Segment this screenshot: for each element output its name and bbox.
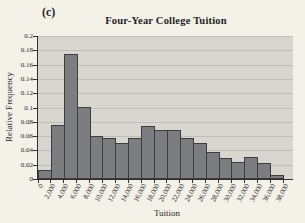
histogram-bar: [141, 126, 155, 179]
histogram-bar: [270, 175, 284, 179]
histogram-bar: [244, 157, 258, 179]
histogram-figure: (c) Four-Year College Tuition Relative F…: [0, 0, 305, 223]
y-tick-mark: [33, 122, 37, 123]
y-tick-label: 0.16: [0, 62, 33, 69]
y-tick-mark: [33, 65, 37, 66]
y-tick-label: 0: [0, 176, 33, 183]
histogram-bar: [51, 125, 65, 179]
y-tick-mark: [33, 36, 37, 37]
y-tick-label: 0.08: [0, 119, 33, 126]
y-tick-mark: [33, 179, 37, 180]
histogram-bar: [38, 170, 52, 179]
gridline: [38, 50, 293, 51]
histogram-bar: [115, 143, 129, 179]
y-tick-label: 0.18: [0, 47, 33, 54]
histogram-bar: [219, 158, 233, 179]
chart-title: Four-Year College Tuition: [105, 15, 227, 26]
y-tick-label: 0.02: [0, 162, 33, 169]
histogram-bar: [167, 130, 181, 179]
histogram-bar: [154, 130, 168, 179]
y-tick-label: 0.14: [0, 76, 33, 83]
figure-part-label: (c): [42, 5, 55, 20]
histogram-bar: [206, 152, 220, 179]
gridline: [38, 36, 293, 37]
y-tick-mark: [33, 93, 37, 94]
y-tick-mark: [33, 108, 37, 109]
histogram-bar: [128, 138, 142, 179]
histogram-bar: [193, 143, 207, 179]
y-tick-mark: [33, 165, 37, 166]
y-tick-label: 0.06: [0, 133, 33, 140]
histogram-bar: [90, 136, 104, 179]
histogram-bar: [257, 163, 271, 179]
y-tick-label: 0.04: [0, 147, 33, 154]
histogram-bar: [64, 54, 78, 179]
y-tick-label: 0.1: [0, 105, 33, 112]
histogram-bar: [102, 138, 116, 179]
y-tick-mark: [33, 136, 37, 137]
y-tick-label: 0.2: [0, 33, 33, 40]
histogram-bar: [180, 138, 194, 179]
histogram-bar: [231, 162, 245, 179]
y-tick-label: 0.12: [0, 90, 33, 97]
y-tick-mark: [33, 150, 37, 151]
plot-area: [37, 36, 293, 180]
y-tick-mark: [33, 79, 37, 80]
y-tick-mark: [33, 50, 37, 51]
histogram-bar: [77, 107, 91, 179]
